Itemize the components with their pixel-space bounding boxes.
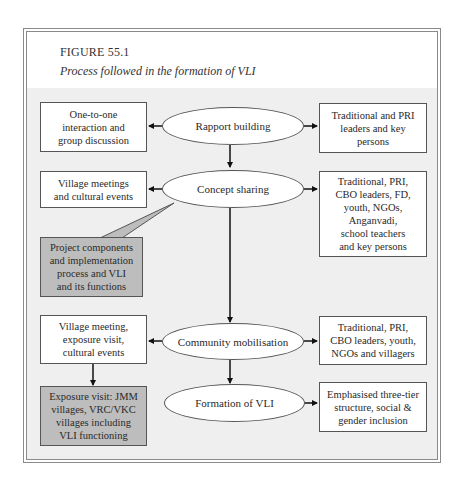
box-village-meeting-exposure: Village meeting, exposure visit, cultura… [40,315,147,364]
box-one-to-one-interaction: One-to-one interaction and group discuss… [40,102,147,152]
stage-community-mobilisation: Community mobilisation [162,323,304,360]
stage-concept-sharing: Concept sharing [162,170,304,208]
figure-header [27,32,437,88]
stage-formation-of-vli: Formation of VLI [164,384,305,422]
box-exposure-visit: Exposure visit: JMM villages, VRC/VKC vi… [40,386,147,446]
box-mobilisation-participants: Traditional, PRI, CBO leaders, youth, NG… [319,316,427,365]
box-village-meetings: Village meetings and cultural events [40,171,147,208]
figure-number: FIGURE 55.1 [60,45,130,60]
stage-rapport-building: Rapport building [162,107,304,145]
figure-title: Process followed in the formation of VLI [60,64,256,79]
box-concept-participants: Traditional, PRI, CBO leaders, FD, youth… [319,171,427,257]
box-formation-emphasis: Emphasised three-tier structure, social … [319,382,427,432]
box-rapport-participants: Traditional and PRI leaders and key pers… [319,103,427,153]
callout-project-components: Project components and implementation pr… [40,237,143,297]
